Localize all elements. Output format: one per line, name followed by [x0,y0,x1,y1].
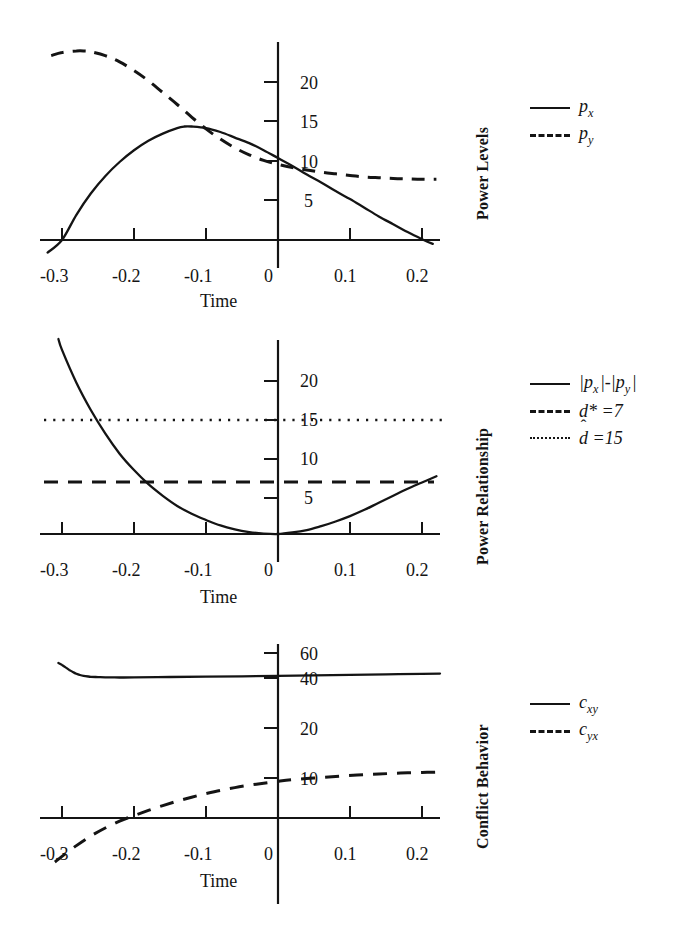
legend-label-cxy: cxy [579,693,598,715]
panel-power-levels: 20 15 10 5 -0.3 -0.2 -0.1 0 0.1 0.2 Time… [0,0,692,310]
x-tick-label: -0.2 [112,266,141,286]
legend-key-dashed-icon [530,404,570,418]
x-tick-label: 0.1 [334,844,357,864]
legend-item: |px |-|py | [530,370,637,397]
y-tick-label: 15 [300,410,318,430]
y-tick-label: 60 [300,644,318,664]
figure-root: 20 15 10 5 -0.3 -0.2 -0.1 0 0.1 0.2 Time… [0,0,692,942]
legend-key-dashed-icon [530,128,570,142]
y-tick-label: 20 [300,719,318,739]
axis-title-conflict-behavior: Conflict Behavior [474,724,492,849]
series-py-curve [51,51,436,180]
y-tick-label: 10 [300,449,318,469]
legend-key-dotted-icon [530,431,570,445]
x-tick-marks [62,228,422,240]
plot-area-conflict-behavior: 60 40 20 10 -0.3 -0.2 -0.1 0 0.1 0.2 Tim… [0,614,692,942]
legend-key-dashed-icon [530,724,570,738]
x-tick-marks [62,522,422,534]
legend-label-dstar: d* =7 [579,402,623,420]
legend-label-cyx: cyx [579,720,598,742]
x-tick-label: 0.2 [406,266,429,286]
y-tick-label: 20 [300,371,318,391]
plot-area-power-relationship: 20 15 10 5 -0.3 -0.2 -0.1 0 0.1 0.2 Time [0,312,692,612]
panel-power-relationship: 20 15 10 5 -0.3 -0.2 -0.1 0 0.1 0.2 Time… [0,312,692,612]
legend-key-solid-icon [530,101,570,115]
plot-area-power-levels: 20 15 10 5 -0.3 -0.2 -0.1 0 0.1 0.2 Time [0,0,692,310]
x-tick-label: -0.1 [184,844,213,864]
x-tick-label: 0.2 [406,844,429,864]
legend-item: ̂d =15 [530,424,637,451]
x-tick-label: 0.2 [406,560,429,580]
x-axis-label: Time [200,871,237,891]
x-axis-label: Time [200,291,237,310]
x-tick-label: -0.1 [184,560,213,580]
axis-title-power-levels: Power Levels [474,127,492,220]
y-tick-label: 10 [300,152,318,172]
legend-key-solid-icon [530,697,570,711]
y-tick-label: 20 [300,73,318,93]
y-tick-marks [264,82,278,200]
x-tick-label: -0.3 [40,844,69,864]
y-tick-label: 40 [300,669,318,689]
x-axis-label: Time [200,587,237,607]
x-tick-label: 0 [264,560,273,580]
panel-conflict-behavior: 60 40 20 10 -0.3 -0.2 -0.1 0 0.1 0.2 Tim… [0,614,692,942]
x-tick-label: 0.1 [334,266,357,286]
x-tick-label: 0 [264,844,273,864]
y-tick-label: 5 [304,191,313,211]
legend-label-dhat: ̂d =15 [579,429,623,447]
y-tick-label: 15 [300,112,318,132]
x-tick-label: -0.3 [40,560,69,580]
legend-key-solid-icon [530,377,570,391]
legend-label-abs-diff: |px |-|py | [579,373,637,395]
legend-item: cyx [530,717,598,744]
y-tick-label: 5 [304,488,313,508]
x-tick-label: -0.2 [112,560,141,580]
x-tick-label: -0.2 [112,844,141,864]
y-tick-marks [264,381,278,498]
legend-item: px [530,94,593,121]
y-tick-label: 10 [300,769,318,789]
legend-item: cxy [530,690,598,717]
legend-conflict-behavior: cxy cyx [530,690,598,744]
y-tick-marks [264,653,278,778]
legend-label-px: px [579,97,593,119]
x-tick-marks [62,806,422,818]
series-cxy-curve [58,663,440,678]
legend-item: d* =7 [530,397,637,424]
series-absdiff-curve [58,339,436,534]
legend-power-relationship: |px |-|py | d* =7 ̂d =15 [530,370,637,451]
x-tick-label: -0.1 [184,266,213,286]
x-tick-label: 0.1 [334,560,357,580]
legend-label-py: py [579,124,593,146]
series-px-curve [48,126,433,252]
axis-title-power-relationship: Power Relationship [474,428,492,565]
x-tick-label: 0 [264,266,273,286]
legend-item: py [530,121,593,148]
legend-power-levels: px py [530,94,593,148]
x-tick-label: -0.3 [40,266,69,286]
